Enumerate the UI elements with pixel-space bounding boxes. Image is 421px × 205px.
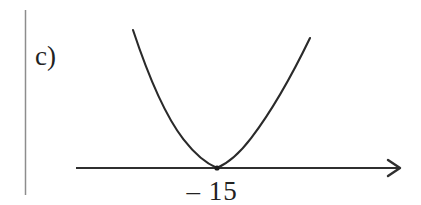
vertex-x-label: – 15: [185, 176, 237, 205]
parabola-figure: c) – 15: [0, 0, 421, 205]
part-label: c): [35, 41, 56, 71]
vertex-point-marker: [214, 165, 219, 170]
figure-background: [0, 0, 421, 205]
figure-container: c) – 15: [0, 0, 421, 205]
